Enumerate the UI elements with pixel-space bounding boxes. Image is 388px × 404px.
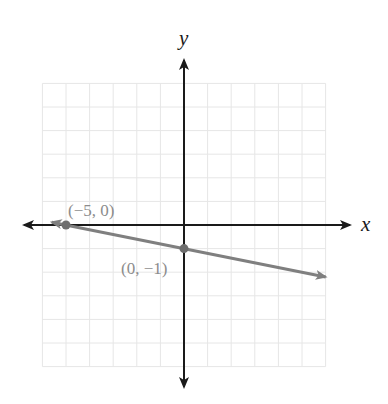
data-point (62, 221, 71, 230)
point-label-x-intercept: (−5, 0) (68, 201, 114, 220)
coordinate-plane: x y (−5, 0) (0, −1) (0, 0, 388, 404)
data-point (180, 244, 189, 253)
x-axis-label: x (360, 212, 371, 236)
series-line (52, 222, 326, 277)
y-axis-label: y (177, 26, 189, 50)
point-label-y-intercept: (0, −1) (121, 259, 167, 278)
data-line (52, 222, 326, 277)
